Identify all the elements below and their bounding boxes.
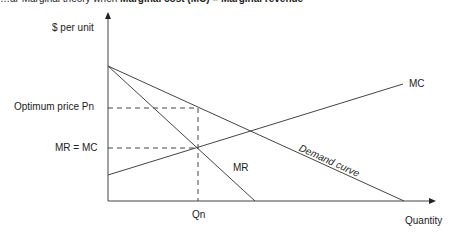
marginal-theory-diagram	[0, 0, 456, 236]
mr-label: MR	[233, 162, 249, 174]
x-axis-arrow-icon	[429, 198, 436, 204]
y-axis-label: $ per unit	[52, 22, 94, 34]
optimum-price-label: Optimum price Pn	[14, 101, 94, 113]
y-axis-arrow-icon	[105, 12, 111, 19]
qn-label: Qn	[192, 209, 205, 221]
demand-curve-line	[108, 66, 404, 201]
mr-equals-mc-label: MR = MC	[55, 142, 98, 154]
quantity-label: Quantity	[405, 215, 442, 227]
mc-label: MC	[409, 78, 425, 90]
mr-line	[108, 66, 255, 201]
mc-line	[108, 84, 403, 175]
